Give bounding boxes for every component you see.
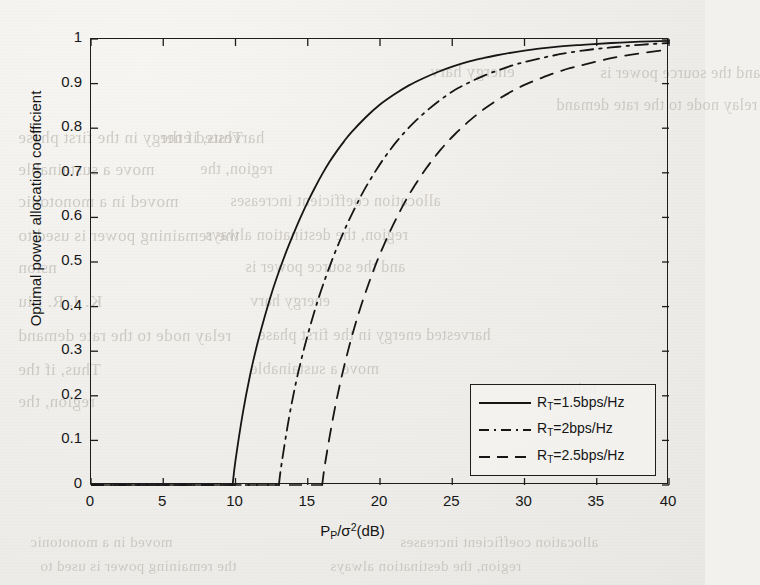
x-tick-label: 5 xyxy=(137,492,187,509)
x-tick-label: 20 xyxy=(354,492,404,509)
y-tick-label: 0.1 xyxy=(30,429,82,446)
y-tick-label: 0.6 xyxy=(30,206,82,223)
x-tick-label: 10 xyxy=(210,492,260,509)
y-tick-label: 0.4 xyxy=(30,296,82,313)
legend-line-sample xyxy=(478,397,532,409)
legend-entry: RT=2bps/Hz xyxy=(478,417,649,443)
legend-label: RT=2.5bps/Hz xyxy=(537,448,624,465)
y-tick-label: 0.7 xyxy=(30,162,82,179)
x-axis-title-suffix: (dB) xyxy=(356,522,384,539)
y-tick-label: 0.3 xyxy=(30,340,82,357)
x-tick-label: 35 xyxy=(571,492,621,509)
y-tick-label: 0.9 xyxy=(30,73,82,90)
x-tick-label: 15 xyxy=(282,492,332,509)
x-axis-title: PP/σ2(dB) xyxy=(0,521,705,541)
y-tick-label: 0 xyxy=(30,474,82,491)
y-tick-label: 1 xyxy=(30,28,82,45)
y-tick-label: 0.8 xyxy=(30,117,82,134)
legend-line-sample xyxy=(478,424,532,436)
legend-label: RT=2bps/Hz xyxy=(537,421,613,438)
x-axis-title-mid: /σ xyxy=(337,522,350,539)
legend-line-sample xyxy=(478,451,532,463)
y-tick-label: 0.2 xyxy=(30,385,82,402)
legend: RT=1.5bps/HzRT=2bps/HzRT=2.5bps/Hz xyxy=(470,384,656,476)
x-axis-title-prefix: P xyxy=(320,522,330,539)
x-tick-label: 40 xyxy=(643,492,693,509)
x-tick-label: 25 xyxy=(426,492,476,509)
legend-entry: RT=2.5bps/Hz xyxy=(478,444,649,470)
legend-label: RT=1.5bps/Hz xyxy=(537,395,624,412)
x-tick-label: 0 xyxy=(65,492,115,509)
x-tick-label: 30 xyxy=(499,492,549,509)
y-tick-label: 0.5 xyxy=(30,251,82,268)
legend-entry: RT=1.5bps/Hz xyxy=(478,390,649,416)
